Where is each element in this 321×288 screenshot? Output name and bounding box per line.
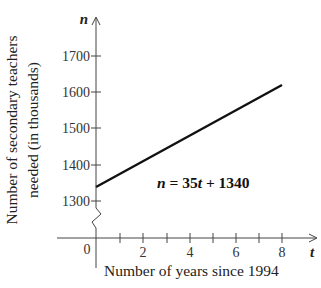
equation-rest: + 1340 — [202, 174, 250, 191]
y-tick-label: 1500 — [62, 121, 90, 136]
x-tick-label: 0 — [84, 242, 91, 257]
y-tick-label: 1600 — [62, 85, 90, 100]
x-tick-label: 4 — [187, 245, 194, 260]
y-tick-label: 1700 — [62, 49, 90, 64]
equation-annotation: n = 35t + 1340 — [157, 174, 250, 191]
y-tick-label: 1300 — [62, 194, 90, 209]
x-axis-title: Number of years since 1994 — [104, 262, 279, 279]
y-axis-title-line1: Number of secondary teachers — [3, 36, 20, 225]
y-tick-label: 1400 — [62, 158, 90, 173]
equation-eq: = 35 — [166, 174, 198, 191]
y-variable-label: n — [80, 11, 88, 27]
line-chart: Number of secondary teachers needed (in … — [0, 0, 321, 288]
axis-break-zigzag — [92, 208, 101, 228]
x-tick-label: 2 — [140, 245, 147, 260]
series-line — [96, 85, 282, 187]
x-tick-label: 8 — [279, 245, 286, 260]
y-axis — [92, 17, 101, 268]
x-variable-label: t — [310, 244, 315, 260]
equation-n: n — [157, 174, 166, 191]
x-tick-label: 6 — [233, 245, 240, 260]
y-axis-title-line2: needed (in thousands) — [24, 62, 42, 198]
